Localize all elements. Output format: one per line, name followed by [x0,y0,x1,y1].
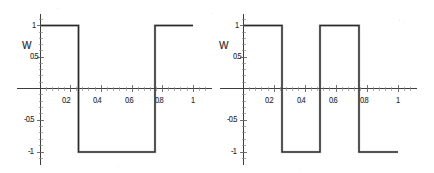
scan-speckle [300,169,301,170]
left-y-tick-label-minus-1: -1 [28,147,33,156]
right-x-tick-label-0-4: 0.4 [297,96,305,105]
left-x-tick-label-1: 1 [191,96,194,105]
left-x-tick-label-0-2: 0.2 [62,96,70,105]
right-y-tick-label-0-5: 0.5 [233,52,241,61]
scan-speckle [57,8,58,9]
scan-speckle [399,20,400,21]
left-x-tick-label-0-6: 0.6 [125,96,133,105]
right-x-tick-label-0-8: 0.8 [360,96,368,105]
scan-speckle [404,22,405,23]
left-square-wave-plot: W 1 0.5 -0.5 -1 0.2 0.4 0.6 0.8 1 [0,0,217,173]
right-x-tick-label-0-2: 0.2 [265,96,273,105]
left-x-tick-label-0-8: 0.8 [155,96,163,105]
left-y-tick-label-minus-0-5: -0.5 [24,115,34,124]
left-y-tick-label-0-5: 0.5 [30,52,38,61]
right-y-axis-variable-label: W [219,41,228,51]
left-y-axis-variable-label: W [22,41,31,51]
figure-root: W 1 0.5 -0.5 -1 0.2 0.4 0.6 0.8 1 [0,0,434,173]
scan-speckle [211,13,212,14]
right-x-tick-label-0-6: 0.6 [329,96,337,105]
left-x-tick-label-0-4: 0.4 [93,96,101,105]
right-square-wave-plot: W 1 0.5 -0.5 -1 0.2 0.4 0.6 0.8 1 [217,0,434,173]
scan-speckle [118,166,119,167]
right-y-tick-label-minus-1: -1 [231,147,236,156]
right-x-tick-label-1: 1 [396,96,399,105]
right-y-tick-label-minus-0-5: -0.5 [227,115,237,124]
right-y-tick-label-1: 1 [235,21,238,30]
left-y-tick-label-1: 1 [32,21,35,30]
right-plot-svg [217,0,434,173]
